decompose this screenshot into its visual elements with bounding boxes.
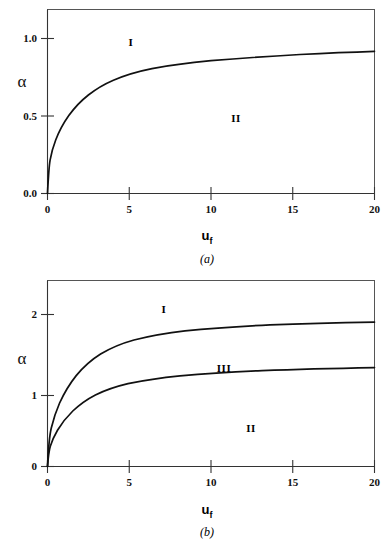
- plot-a-annotations: I II: [0, 0, 390, 271]
- figure-container: 0.0 0.5 1.0 0 5 10 15 20 α uf (a): [0, 0, 390, 542]
- plot-a-region-label-I: I: [129, 36, 134, 48]
- plot-b-region-label-I: I: [162, 303, 167, 315]
- panel-a: 0.0 0.5 1.0 0 5 10 15 20 α uf (a): [0, 0, 390, 271]
- panel-b: 0 1 2 0 5 10 15 20 α uf (b): [0, 271, 390, 542]
- plot-b-annotations: I III II: [0, 271, 390, 542]
- plot-b-region-label-II: II: [246, 422, 256, 434]
- plot-a-region-label-II: II: [231, 112, 241, 124]
- plot-b-region-label-III: III: [217, 362, 231, 374]
